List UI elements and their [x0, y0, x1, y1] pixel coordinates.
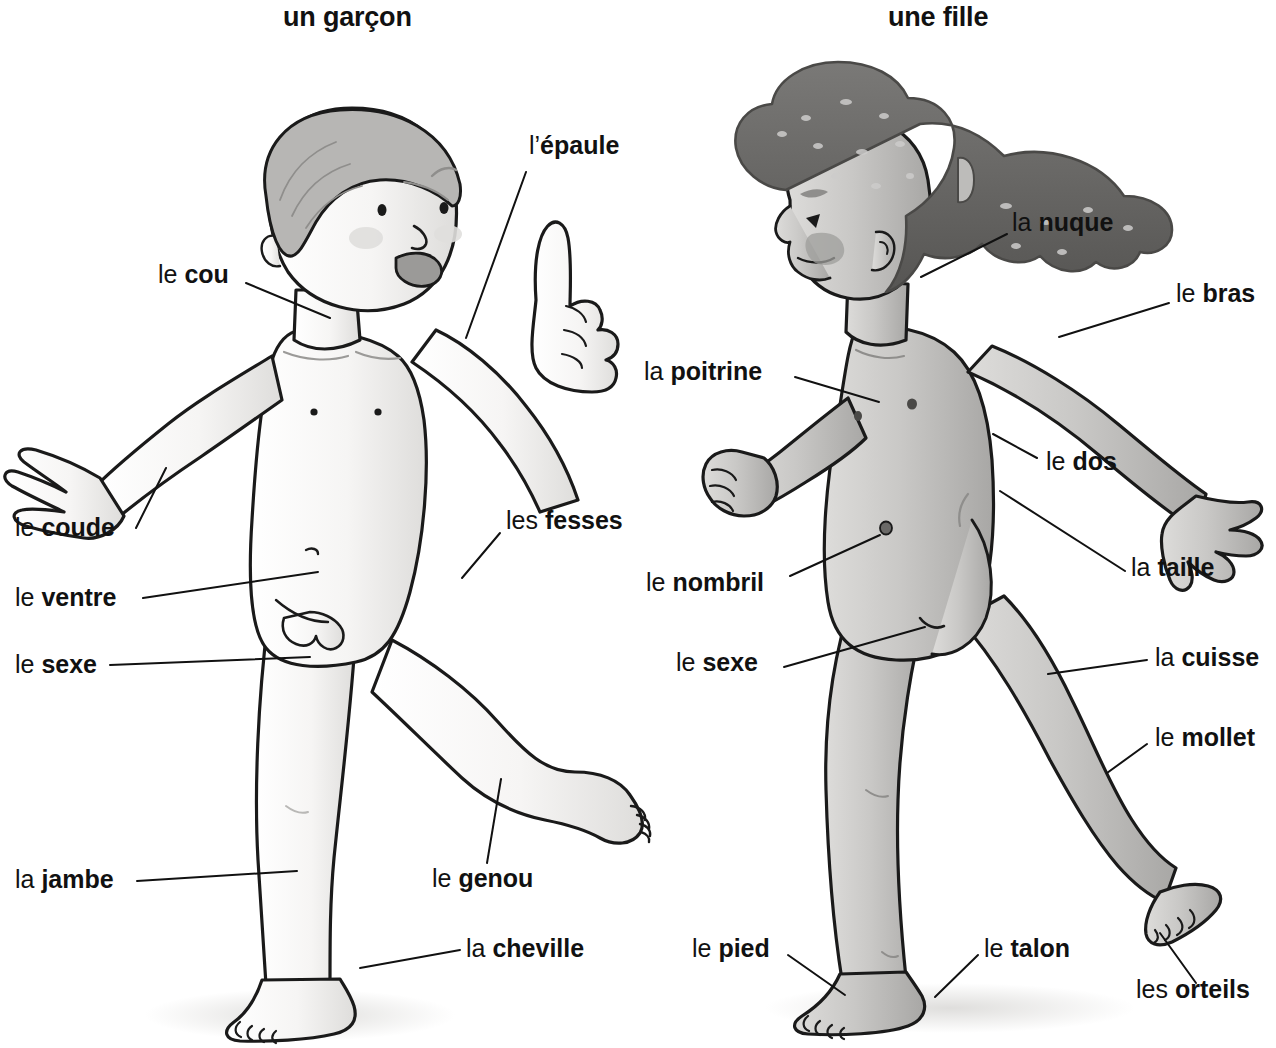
boy-finger-creases: [562, 306, 586, 368]
girl-face: [806, 214, 820, 228]
label-jambe-article: la: [15, 865, 41, 893]
label-cheville[interactable]: la cheville: [466, 936, 584, 961]
leader-talon: [935, 955, 978, 997]
label-poitrine-noun: poitrine: [670, 357, 762, 385]
boy-raised-arm: [412, 330, 578, 512]
label-nuque[interactable]: la nuque: [1012, 210, 1113, 235]
label-nuque-article: la: [1012, 208, 1038, 236]
label-poitrine[interactable]: la poitrine: [644, 359, 762, 384]
girl-back-foot-toes: [1154, 910, 1194, 943]
girl-back-foot: [1146, 884, 1221, 944]
label-genou[interactable]: le genou: [432, 866, 533, 891]
boy-ear: [262, 236, 280, 267]
girl-navel: [880, 522, 892, 535]
label-mollet-article: le: [1155, 723, 1181, 751]
boy-neck: [294, 290, 360, 349]
label-pied-article: le: [692, 934, 718, 962]
boy-pointing-hand: [532, 222, 618, 392]
label-talon-noun: talon: [1010, 934, 1070, 962]
girl-collarbone: [856, 350, 904, 358]
girl-torso: [824, 327, 993, 660]
label-orteils[interactable]: les orteils: [1136, 977, 1250, 1002]
label-coude-article: le: [15, 513, 41, 541]
boy-head: [268, 108, 457, 311]
label-cuisse[interactable]: la cuisse: [1155, 645, 1259, 670]
girl-eyebrow: [800, 189, 828, 197]
girl-fist: [703, 451, 777, 517]
label-nombril[interactable]: le nombril: [646, 570, 764, 595]
leader-cou: [246, 283, 330, 318]
boy-torso: [250, 330, 426, 666]
label-sexe-girl-noun: sexe: [702, 648, 758, 676]
leader-poitrine: [795, 377, 879, 402]
label-nombril-article: le: [646, 568, 672, 596]
title-girl: une fille: [888, 2, 988, 33]
label-epaule[interactable]: l’épaule: [529, 133, 619, 158]
leader-epaule: [466, 172, 526, 338]
boy-open-arm: [96, 356, 282, 516]
girl-head: [787, 117, 931, 299]
girl-front-leg: [826, 600, 926, 980]
boy-back-foot-toes: [631, 806, 650, 842]
label-bras-article: le: [1176, 279, 1202, 307]
label-ventre[interactable]: le ventre: [15, 585, 116, 610]
label-bras[interactable]: le bras: [1176, 281, 1255, 306]
label-taille[interactable]: la taille: [1131, 555, 1214, 580]
label-sexe-girl[interactable]: le sexe: [676, 650, 758, 675]
label-cou-noun: cou: [184, 260, 228, 288]
boy-ground-shadow: [145, 989, 455, 1041]
label-dos-noun: dos: [1072, 447, 1116, 475]
girl-ear: [872, 232, 894, 271]
girl-back-arm: [968, 346, 1206, 530]
label-dos[interactable]: le dos: [1046, 449, 1117, 474]
label-pied[interactable]: le pied: [692, 936, 770, 961]
label-orteils-noun: orteils: [1175, 975, 1250, 1003]
girl-back-leg: [960, 596, 1176, 902]
label-talon-article: le: [984, 934, 1010, 962]
label-nombril-noun: nombril: [672, 568, 764, 596]
boy-navel: [306, 549, 318, 554]
girl-hair: [735, 62, 1172, 292]
illustration-layer: [0, 0, 1276, 1048]
leader-pied: [788, 955, 845, 995]
leader-cheville: [360, 950, 460, 968]
boy-nipples: [310, 408, 381, 415]
label-cheville-article: la: [466, 934, 492, 962]
label-fesses-noun: fesses: [545, 506, 623, 534]
label-epaule-article: l’: [529, 131, 540, 159]
leader-sexe-g: [784, 627, 925, 667]
girl-ear-inner: [880, 242, 888, 254]
label-cou[interactable]: le cou: [158, 262, 229, 287]
label-fesses[interactable]: les fesses: [506, 508, 623, 533]
leader-coude: [136, 468, 166, 528]
boy-hair-strands: [280, 142, 448, 228]
girl-fist-fingers: [710, 469, 736, 511]
girl-profile: [776, 206, 830, 280]
leader-genou: [487, 779, 501, 863]
label-talon[interactable]: le talon: [984, 936, 1070, 961]
girl-ankle-crease: [882, 952, 898, 957]
girl-front-foot-toes: [804, 1016, 844, 1039]
girl-chest-marks: [854, 399, 917, 422]
boy-mouth: [396, 253, 442, 286]
label-cuisse-article: la: [1155, 643, 1181, 671]
boy-genitals: [283, 612, 344, 649]
label-jambe[interactable]: la jambe: [15, 867, 114, 892]
label-coude-noun: coude: [41, 513, 115, 541]
boy-collarbone: [284, 352, 400, 359]
boy-face: [378, 202, 449, 216]
label-fesses-article: les: [506, 506, 545, 534]
boy-cheeks: [349, 225, 462, 249]
label-genou-noun: genou: [458, 864, 533, 892]
leader-mollet: [1107, 744, 1147, 773]
boy-nose: [412, 226, 426, 249]
girl-crotch: [920, 618, 944, 628]
label-mollet[interactable]: le mollet: [1155, 725, 1255, 750]
label-ventre-article: le: [15, 583, 41, 611]
leader-cuisse: [1048, 660, 1147, 674]
label-cuisse-noun: cuisse: [1181, 643, 1259, 671]
label-coude[interactable]: le coude: [15, 515, 115, 540]
label-cou-article: le: [158, 260, 184, 288]
label-pied-noun: pied: [718, 934, 769, 962]
label-sexe-boy[interactable]: le sexe: [15, 652, 97, 677]
